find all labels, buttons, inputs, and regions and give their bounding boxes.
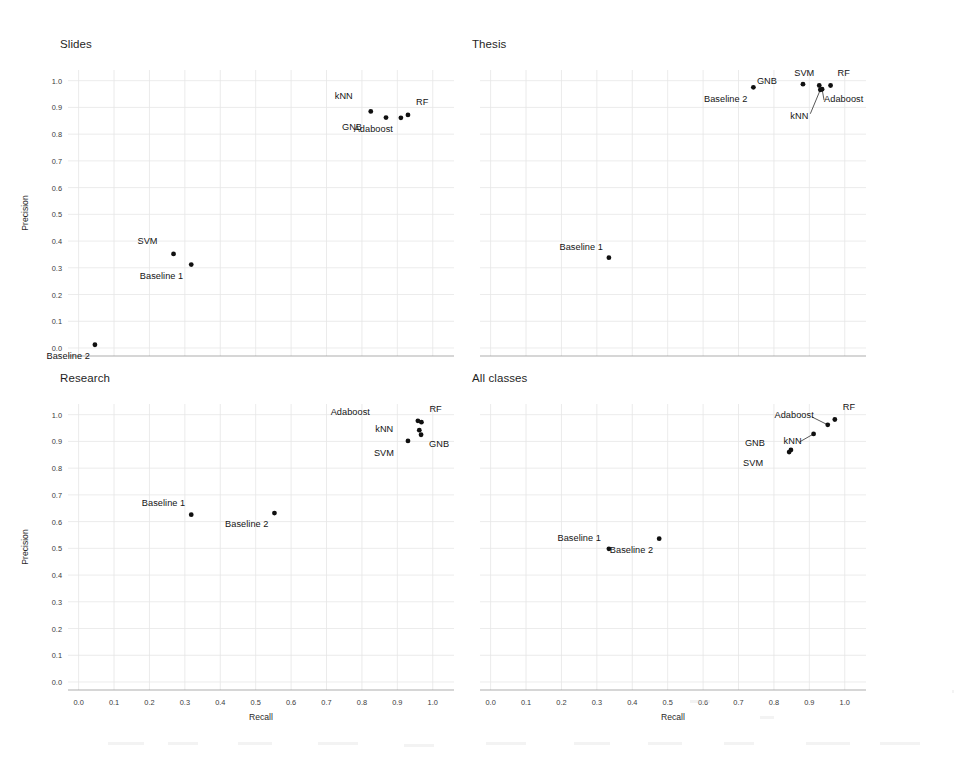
y-tick-label: 0.8 bbox=[38, 464, 62, 473]
data-point[interactable] bbox=[171, 251, 176, 256]
x-tick-label: 1.0 bbox=[840, 698, 850, 707]
y-tick-label: 0.9 bbox=[38, 103, 62, 112]
y-tick-label: 0.6 bbox=[38, 183, 62, 192]
data-point[interactable] bbox=[811, 432, 816, 437]
x-tick-label: 0.4 bbox=[215, 698, 225, 707]
point-label: kNN bbox=[335, 91, 353, 101]
data-point[interactable] bbox=[398, 115, 403, 120]
x-tick-label: 0.1 bbox=[521, 698, 531, 707]
leader-line bbox=[800, 434, 814, 442]
panel-title-thesis: Thesis bbox=[472, 38, 506, 50]
scan-artifact bbox=[168, 742, 198, 745]
x-tick-label: 0.1 bbox=[109, 698, 119, 707]
point-label: Baseline 1 bbox=[558, 533, 601, 543]
data-point[interactable] bbox=[406, 113, 411, 118]
scan-artifact bbox=[724, 742, 754, 745]
point-label: Adaboost bbox=[824, 94, 863, 104]
point-label: Adaboost bbox=[354, 124, 393, 134]
plot-canvas-thesis bbox=[480, 70, 926, 396]
plot-canvas-research bbox=[68, 404, 514, 730]
x-axis-title: Recall bbox=[249, 712, 273, 722]
point-label: RF bbox=[838, 68, 850, 78]
point-label: kNN bbox=[784, 436, 802, 446]
data-point[interactable] bbox=[787, 450, 792, 455]
scatter-figure: SlideskNNGNBAdaboostRFSVMBaseline 1Basel… bbox=[0, 0, 954, 771]
x-tick-label: 0.0 bbox=[485, 698, 495, 707]
point-label: Adaboost bbox=[775, 410, 814, 420]
data-point[interactable] bbox=[368, 109, 373, 114]
point-label: Baseline 2 bbox=[225, 519, 268, 529]
y-tick-label: 0.5 bbox=[38, 544, 62, 553]
data-point[interactable] bbox=[189, 512, 194, 517]
gridlines-research bbox=[68, 404, 454, 690]
point-label: SVM bbox=[137, 236, 157, 246]
y-tick-label: 0.1 bbox=[38, 317, 62, 326]
point-label: kNN bbox=[790, 111, 808, 121]
scan-artifact bbox=[318, 742, 358, 745]
leader-line bbox=[810, 90, 820, 114]
scan-artifact bbox=[760, 716, 774, 719]
data-point[interactable] bbox=[384, 115, 389, 120]
point-label: SVM bbox=[743, 458, 763, 468]
y-axis-title: Precision bbox=[20, 195, 30, 230]
y-tick-label: 0.9 bbox=[38, 437, 62, 446]
x-tick-label: 0.5 bbox=[251, 698, 261, 707]
panel-title-slides: Slides bbox=[60, 38, 92, 50]
plot-canvas-all-classes bbox=[480, 404, 926, 730]
x-tick-label: 0.0 bbox=[73, 698, 83, 707]
data-point[interactable] bbox=[406, 438, 411, 443]
y-tick-label: 0.4 bbox=[38, 237, 62, 246]
data-point[interactable] bbox=[801, 82, 806, 87]
data-point[interactable] bbox=[657, 536, 662, 541]
x-tick-label: 0.8 bbox=[357, 698, 367, 707]
y-axis-title: Precision bbox=[20, 529, 30, 564]
y-tick-label: 1.0 bbox=[38, 76, 62, 85]
point-label: SVM bbox=[374, 448, 394, 458]
plot-area-slides bbox=[68, 70, 454, 356]
y-tick-label: 0.0 bbox=[38, 343, 62, 352]
y-tick-label: 0.7 bbox=[38, 490, 62, 499]
scan-artifact bbox=[238, 742, 272, 745]
data-point[interactable] bbox=[832, 417, 837, 422]
y-tick-label: 0.3 bbox=[38, 263, 62, 272]
data-point[interactable] bbox=[272, 511, 277, 516]
x-tick-label: 0.8 bbox=[769, 698, 779, 707]
x-tick-label: 0.9 bbox=[804, 698, 814, 707]
y-tick-label: 0.6 bbox=[38, 517, 62, 526]
x-tick-label: 0.4 bbox=[627, 698, 637, 707]
point-label: Baseline 2 bbox=[704, 94, 747, 104]
data-point[interactable] bbox=[825, 422, 830, 427]
point-label: Baseline 2 bbox=[610, 545, 653, 555]
y-tick-label: 0.2 bbox=[38, 290, 62, 299]
data-point[interactable] bbox=[93, 342, 98, 347]
point-label: Baseline 1 bbox=[142, 498, 185, 508]
x-tick-label: 0.6 bbox=[286, 698, 296, 707]
point-label: GNB bbox=[745, 438, 765, 448]
scan-artifact bbox=[574, 742, 610, 745]
data-point[interactable] bbox=[419, 420, 424, 425]
data-point[interactable] bbox=[828, 83, 833, 88]
x-tick-label: 0.3 bbox=[592, 698, 602, 707]
y-tick-label: 0.1 bbox=[38, 651, 62, 660]
y-tick-label: 0.7 bbox=[38, 156, 62, 165]
data-point[interactable] bbox=[417, 428, 422, 433]
scan-artifact bbox=[880, 742, 920, 745]
point-label: RF bbox=[416, 97, 428, 107]
plot-canvas-slides bbox=[68, 70, 514, 396]
data-point[interactable] bbox=[189, 262, 194, 267]
point-label: RF bbox=[429, 404, 441, 414]
data-point[interactable] bbox=[607, 255, 612, 260]
point-label: RF bbox=[843, 402, 855, 412]
data-point[interactable] bbox=[818, 87, 823, 92]
panel-title-research: Research bbox=[60, 372, 110, 384]
data-point[interactable] bbox=[751, 85, 756, 90]
y-tick-label: 0.5 bbox=[38, 210, 62, 219]
leader-line bbox=[812, 417, 828, 425]
x-tick-label: 0.2 bbox=[144, 698, 154, 707]
x-tick-label: 0.9 bbox=[392, 698, 402, 707]
point-label: SVM bbox=[794, 68, 814, 78]
point-label: Baseline 1 bbox=[560, 242, 603, 252]
y-tick-label: 0.3 bbox=[38, 597, 62, 606]
data-point[interactable] bbox=[419, 432, 424, 437]
scan-artifact bbox=[486, 742, 526, 745]
